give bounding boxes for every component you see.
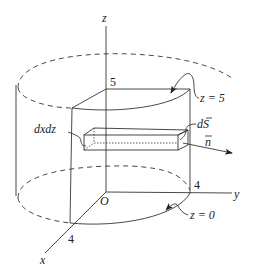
svg-text:dS: dS	[197, 117, 209, 131]
top-surface-label: z = 5	[199, 91, 225, 105]
bottom-surface-label: z = 0	[189, 208, 215, 222]
cylinder-flux-diagram: z y x O 5 4 4 z = 5 z = 0 dxdz dS n	[0, 0, 255, 269]
area-element-box	[84, 128, 188, 150]
z-axis-label: z	[101, 11, 107, 25]
surface-vector-label: dS	[197, 117, 212, 131]
x-axis-label: x	[39, 253, 46, 267]
y-axis	[106, 192, 232, 193]
y-axis-label: y	[233, 187, 240, 201]
quarter-cylinder	[70, 89, 190, 224]
x-radius-tick: 4	[68, 232, 74, 246]
origin-label: O	[100, 194, 109, 208]
area-element-label: dxdz	[34, 122, 56, 136]
svg-text:n: n	[205, 135, 211, 149]
full-cylinder-outline	[16, 54, 232, 223]
y-radius-tick: 4	[194, 178, 200, 192]
leader-lines	[68, 74, 199, 216]
normal-vector-label: n	[205, 135, 212, 149]
z-height-tick: 5	[110, 75, 116, 89]
x-axis	[45, 192, 106, 253]
